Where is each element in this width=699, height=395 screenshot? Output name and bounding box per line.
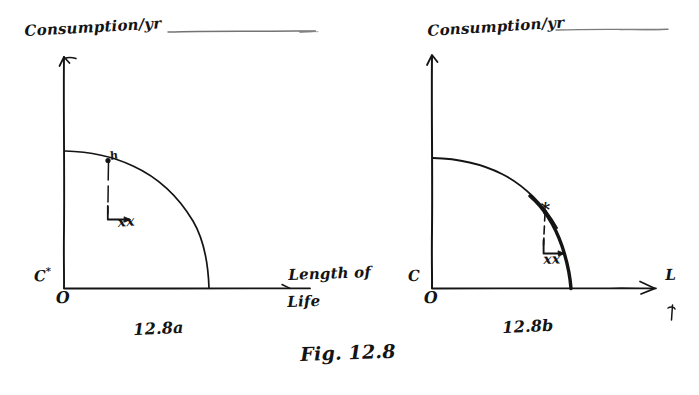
panel-b-y-intercept-label: C — [408, 267, 421, 285]
figure-canvas: Consumption/yr h xx C* O Length of Life … — [0, 0, 699, 395]
figure-drawing — [0, 0, 699, 395]
panel-12-8a-drawing — [60, 57, 311, 289]
panel-a-x-axis-title-line1: Length of — [288, 265, 371, 283]
panel-b-curve-marker-label: * — [539, 200, 551, 220]
panel-b-x-axis-title: L — [665, 268, 676, 283]
panel-a-y-intercept-label: C* — [34, 267, 52, 285]
panel-b-c-letter: C — [408, 267, 421, 286]
panel-b-caption: 12.8b — [502, 318, 554, 336]
panel-b-increment-label: xx — [543, 251, 561, 266]
panel-a-c-letter: C — [34, 267, 47, 286]
panel-a-c-star: * — [46, 266, 52, 277]
ruled-line-left — [168, 31, 315, 32]
panel-a-x-axis-title-line2: Life — [287, 294, 321, 310]
panel-a-origin-label: O — [55, 290, 70, 307]
frontier-curve-a — [65, 151, 209, 288]
x-axis-sub-tick-b — [668, 305, 675, 320]
panel-b-origin-label: O — [423, 290, 438, 307]
ruled-line-group — [168, 29, 668, 32]
frontier-curve-b-bold-segment — [530, 196, 571, 289]
panel-a-increment-label: xx — [117, 214, 135, 229]
figure-caption: Fig. 12.8 — [300, 342, 396, 364]
y-axis-arrow-flick-a — [65, 57, 77, 58]
panel-12-8b-drawing — [427, 55, 675, 320]
panel-a-caption: 12.8a — [133, 320, 184, 338]
